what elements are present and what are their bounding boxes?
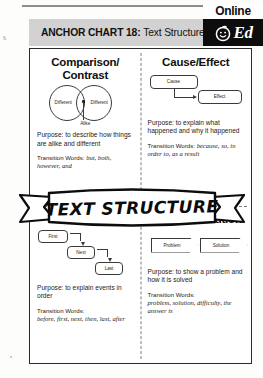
quadrant-title: Problem/Solution — [148, 213, 245, 226]
smiley-face-icon — [214, 24, 232, 42]
ed-logo-box: Ed — [203, 19, 263, 46]
venn-label-left: Different — [51, 100, 75, 105]
purpose-label: Purpose: — [148, 119, 174, 126]
connector-2-v — [107, 249, 108, 257]
purpose-text: Purpose: to explain what happened and wh… — [148, 119, 245, 136]
transition-label: Transition Words: — [37, 307, 134, 315]
ed-wordmark: Ed — [234, 24, 253, 41]
sequence-diagram: First Next Last — [37, 230, 134, 280]
problem-solution-diagram: Problem Solution — [148, 230, 245, 264]
venn-label-center: Alike — [73, 121, 97, 126]
anchor-chart-body: Comparison/ Contrast Different Different… — [29, 48, 252, 364]
quadrant-title-line2: Contrast — [37, 69, 134, 82]
transition-label: Transition Words: — [148, 291, 245, 299]
transition-words: Transition Words: because, so, in order … — [148, 142, 245, 158]
quadrant-problem-solution: Problem/Solution Problem Solution Purpos… — [141, 206, 252, 363]
transition-words: Transition Words: but, both, however, an… — [37, 154, 134, 170]
chevron-problem: Problem — [151, 238, 199, 253]
cause-effect-diagram: Cause Effect — [148, 73, 245, 115]
quadrant-cause-effect: Cause/Effect Cause Effect Purpose: to ex… — [141, 49, 252, 206]
node-next: Next — [67, 246, 95, 259]
transition-body: problem, solution, difficulty, the answe… — [148, 299, 232, 314]
arrow-icon-2 — [104, 259, 110, 261]
venn-diagram: Different Different Alike — [37, 85, 134, 127]
transition-words: Transition Words: problem, solution, dif… — [148, 291, 245, 316]
page-title: ANCHOR CHART 18: Text Structure — [41, 27, 205, 38]
node-cause: Cause — [150, 75, 198, 89]
margin-bleed-glyph: s — [3, 33, 6, 42]
margin-speck — [10, 356, 12, 358]
purpose-text: Purpose: to show a problem and how it is… — [148, 268, 245, 285]
transition-words: Transition Words: before, first, next, t… — [37, 307, 134, 323]
connector-1-v — [80, 233, 81, 241]
node-last: Last — [95, 262, 123, 275]
chevron-solution: Solution — [200, 238, 248, 253]
transition-body: before, first, next, then, last, after — [37, 315, 125, 322]
node-first: First — [38, 230, 68, 243]
quadrant-title-line1: Comparison/ — [37, 56, 134, 69]
purpose-text: Purpose: to describe how things are alik… — [37, 131, 134, 148]
scanned-page: s ANCHOR CHART 18: Text Structure Online… — [0, 0, 263, 378]
purpose-label: Purpose: — [37, 284, 63, 291]
online-ed-logo[interactable]: Online Ed — [203, 5, 263, 46]
venn-center-tick — [83, 102, 84, 120]
purpose-label: Purpose: — [37, 131, 63, 138]
purpose-label: Purpose: — [148, 268, 174, 275]
quadrant-title: Sequence — [37, 213, 134, 226]
horizontal-divider — [34, 206, 247, 207]
transition-label: Transition Words: — [148, 142, 195, 149]
quadrant-comparison-contrast: Comparison/ Contrast Different Different… — [30, 49, 141, 206]
quadrant-title: Comparison/ Contrast — [37, 56, 134, 81]
quadrant-sequence: Sequence First Next Last Purpose: to exp… — [30, 206, 141, 363]
purpose-text: Purpose: to explain events in order — [37, 284, 134, 301]
arrow-icon-1 — [77, 243, 83, 245]
venn-center-dot — [82, 100, 85, 103]
online-label: Online — [203, 5, 263, 18]
transition-label: Transition Words: — [37, 154, 84, 161]
quadrant-title: Cause/Effect — [148, 56, 245, 69]
venn-label-right: Different — [87, 100, 111, 105]
node-effect: Effect — [198, 90, 242, 104]
header-subject: Text Structure — [143, 27, 204, 38]
header-label: ANCHOR CHART 18: — [41, 27, 140, 38]
arrow-icon — [174, 97, 196, 103]
